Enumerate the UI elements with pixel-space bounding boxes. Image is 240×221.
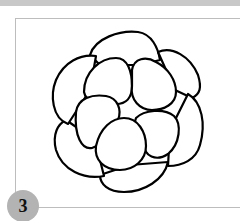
cell-cluster-illustration xyxy=(40,20,220,200)
step-number-badge: 3 xyxy=(7,190,39,221)
top-bar xyxy=(0,0,240,6)
